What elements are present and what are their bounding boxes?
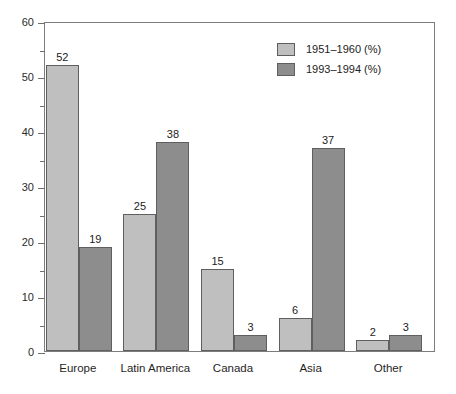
bar-value-label: 2 [370, 327, 376, 338]
y-axis-tick-label: 60 [8, 17, 34, 28]
legend-swatch-icon [277, 63, 295, 76]
x-axis-category-label: Europe [59, 363, 96, 375]
y-axis-minor-tick [40, 51, 45, 52]
bar [356, 340, 389, 351]
y-axis-tick-label: 30 [8, 182, 34, 193]
x-axis-category-label: Latin America [121, 363, 191, 375]
y-axis-major-tick [38, 353, 45, 354]
y-axis-minor-tick [40, 326, 45, 327]
y-axis-tick-label: 10 [8, 292, 34, 303]
bar [279, 318, 312, 351]
legend-label: 1993–1994 (%) [306, 64, 381, 75]
bar [156, 142, 189, 351]
y-axis-minor-tick [40, 106, 45, 107]
y-axis-minor-tick [40, 216, 45, 217]
legend-swatch-icon [277, 43, 295, 56]
legend-label: 1951–1960 (%) [306, 44, 381, 55]
bar [234, 335, 267, 352]
bar [389, 335, 422, 352]
y-axis-major-tick [38, 133, 45, 134]
bar-value-label: 52 [56, 52, 68, 63]
y-axis-tick-label: 0 [8, 347, 34, 358]
y-axis-major-tick [38, 188, 45, 189]
bar-value-label: 25 [134, 201, 146, 212]
y-axis-major-tick [38, 298, 45, 299]
bar-value-label: 3 [403, 322, 409, 333]
bar [201, 269, 234, 352]
legend-item: 1951–1960 (%) [277, 43, 381, 56]
bar-chart-screenshot: 5219253815363723 1951–1960 (%)1993–1994 … [0, 0, 456, 394]
bar-value-label: 19 [89, 234, 101, 245]
bar [312, 148, 345, 352]
y-axis-major-tick [38, 23, 45, 24]
bar-value-label: 15 [211, 256, 223, 267]
chart-legend: 1951–1960 (%)1993–1994 (%) [277, 43, 381, 76]
plot-area: 5219253815363723 1951–1960 (%)1993–1994 … [44, 22, 435, 352]
y-axis-major-tick [38, 78, 45, 79]
bar-value-label: 38 [167, 129, 179, 140]
y-axis-tick-label: 40 [8, 127, 34, 138]
bar [79, 247, 112, 352]
bar [46, 65, 79, 351]
bar-value-label: 6 [292, 305, 298, 316]
y-axis-tick-label: 20 [8, 237, 34, 248]
y-axis-tick-label: 50 [8, 72, 34, 83]
bar [123, 214, 156, 352]
x-axis-category-label: Asia [299, 363, 321, 375]
legend-item: 1993–1994 (%) [277, 63, 381, 76]
x-axis-category-label: Other [374, 363, 403, 375]
x-axis-category-label: Canada [213, 363, 253, 375]
y-axis-minor-tick [40, 161, 45, 162]
y-axis-minor-tick [40, 271, 45, 272]
bar-value-label: 37 [322, 135, 334, 146]
bar-value-label: 3 [247, 322, 253, 333]
y-axis-major-tick [38, 243, 45, 244]
